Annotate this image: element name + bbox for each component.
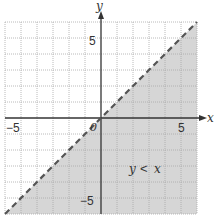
y-tick-5: 5 [89, 34, 96, 48]
x-tick-5: 5 [178, 121, 185, 135]
svg-text:x: x [154, 162, 161, 176]
x-axis-arrow-icon [199, 115, 207, 121]
svg-text:y: y [128, 162, 136, 176]
y-tick-neg5: −5 [80, 194, 94, 208]
inequality-graph: y x 5 −5 −5 5 0 y < x [0, 0, 214, 222]
svg-text:<: < [140, 161, 148, 176]
origin-label: 0 [90, 121, 97, 134]
x-tick-neg5: −5 [6, 121, 20, 135]
region-annotation: y < x [128, 161, 161, 176]
y-axis-label: y [95, 0, 103, 13]
x-axis-label: x [207, 111, 214, 125]
